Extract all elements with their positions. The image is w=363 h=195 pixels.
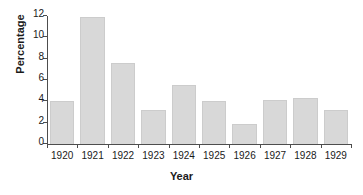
y-tick-label: 2 (38, 115, 44, 126)
bar (50, 101, 74, 144)
y-axis-title: Percentage (13, 0, 27, 99)
x-tick-label: 1926 (233, 150, 255, 161)
x-tick-mark (138, 144, 139, 148)
x-tick-label: 1925 (203, 150, 225, 161)
x-tick-mark (108, 144, 109, 148)
y-tick-label: 6 (38, 72, 44, 83)
bar (263, 100, 287, 144)
bar (141, 110, 165, 144)
x-tick-mark (351, 144, 352, 148)
bar-chart-figure: Percentage 024681012 1920192119221923192… (0, 0, 363, 195)
bar (80, 17, 104, 144)
x-tick-mark (77, 144, 78, 148)
y-tick-label: 4 (38, 93, 44, 104)
bar (293, 98, 317, 144)
x-tick-label: 1924 (173, 150, 195, 161)
bar (172, 85, 196, 144)
x-tick-label: 1929 (325, 150, 347, 161)
y-tick-label: 0 (38, 136, 44, 147)
bar (111, 63, 135, 144)
x-tick-mark (229, 144, 230, 148)
x-tick-mark (321, 144, 322, 148)
x-tick-label: 1921 (81, 150, 103, 161)
x-tick-mark (169, 144, 170, 148)
x-tick-label: 1923 (142, 150, 164, 161)
y-axis-line (47, 16, 48, 144)
x-tick-mark (290, 144, 291, 148)
bar (232, 124, 256, 144)
x-tick-mark (47, 144, 48, 148)
bar (202, 101, 226, 144)
x-tick-mark (260, 144, 261, 148)
x-tick-label: 1927 (264, 150, 286, 161)
y-tick-label: 10 (33, 29, 44, 40)
plot-area: 024681012 192019211922192319241925192619… (47, 16, 351, 144)
bar (324, 110, 348, 144)
y-tick-label: 12 (33, 8, 44, 19)
x-tick-label: 1922 (112, 150, 134, 161)
x-tick-mark (199, 144, 200, 148)
x-tick-label: 1920 (51, 150, 73, 161)
y-tick-label: 8 (38, 51, 44, 62)
x-tick-label: 1928 (294, 150, 316, 161)
x-axis-title: Year (0, 170, 363, 182)
